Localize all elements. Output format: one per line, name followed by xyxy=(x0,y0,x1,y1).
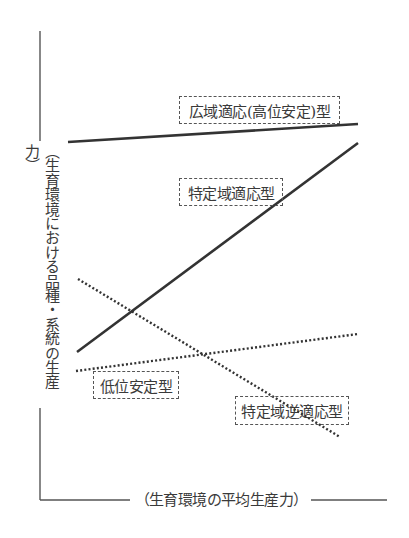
y-axis-label: （生育環境における品種・系統の生産力） xyxy=(31,144,51,404)
line-wide-adaptation xyxy=(68,124,358,142)
line-specific-adaptation xyxy=(77,143,358,352)
label-specific-adaptation: 特定域適応型 xyxy=(179,178,283,206)
x-axis-label: （生育環境の平均生産力） xyxy=(132,489,310,511)
line-low-stable xyxy=(76,334,358,371)
label-wide-adaptation: 広域適応(高位安定)型 xyxy=(179,96,340,124)
diagram-canvas xyxy=(0,0,409,538)
label-low-stable: 低位安定型 xyxy=(93,371,179,399)
label-specific-inverse-adaptation: 特定域逆適応型 xyxy=(235,396,349,425)
